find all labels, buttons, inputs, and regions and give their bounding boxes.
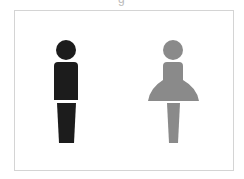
- restroom-figures: [0, 0, 244, 179]
- male-figure-icon: [54, 40, 78, 143]
- female-figure-icon: [148, 40, 199, 143]
